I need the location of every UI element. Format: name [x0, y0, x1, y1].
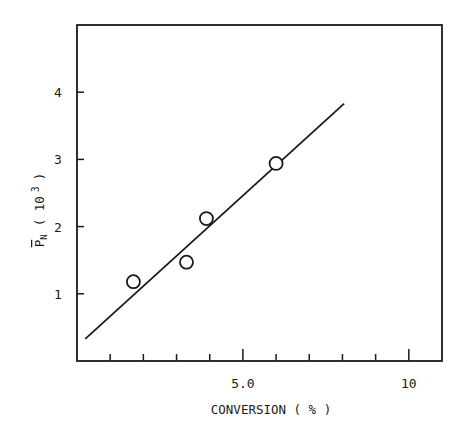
data-point-marker — [200, 212, 213, 225]
y-tick-label: 3 — [54, 152, 62, 167]
y-title-unit-open: ( 10 — [32, 196, 47, 226]
y-axis-title: PN( 103) — [30, 173, 49, 248]
x-tick-label: 10 — [401, 376, 417, 391]
plot-frame — [77, 25, 442, 361]
y-tick-label: 2 — [54, 220, 62, 235]
y-tick-label: 4 — [54, 85, 62, 100]
fit-line — [85, 104, 344, 339]
plot-border — [77, 25, 442, 361]
x-axis-title: CONVERSION ( % ) — [211, 402, 331, 417]
data-point-marker — [127, 275, 140, 288]
chart: 5.010 1234 CONVERSION ( % ) PN( 103) — [0, 0, 470, 440]
y-title-subscript: N — [39, 234, 49, 239]
data-point-marker — [270, 157, 283, 170]
x-tick-label: 5.0 — [231, 376, 254, 391]
svg-text:PN( 103): PN( 103) — [30, 173, 49, 248]
data-point-marker — [180, 256, 193, 269]
y-title-unit-close: ) — [32, 173, 47, 181]
y-axis-ticks: 1234 — [54, 85, 84, 302]
plot-series — [85, 104, 344, 339]
y-title-symbol: P — [32, 240, 47, 248]
y-tick-label: 1 — [54, 287, 62, 302]
x-axis-ticks: 5.010 — [110, 349, 416, 391]
y-title-unit-exp: 3 — [30, 186, 41, 192]
